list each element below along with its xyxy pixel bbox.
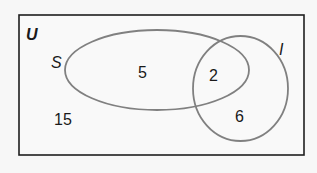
universe-rectangle — [19, 15, 304, 155]
set-i-label: I — [279, 41, 284, 58]
universe-label: U — [26, 26, 38, 43]
intersection-count: 2 — [209, 67, 218, 84]
venn-diagram: U S I 5 2 6 15 — [0, 0, 317, 173]
s-only-count: 5 — [138, 64, 147, 81]
set-s-label: S — [51, 54, 62, 71]
i-only-count: 6 — [235, 108, 244, 125]
outside-count: 15 — [54, 111, 72, 128]
